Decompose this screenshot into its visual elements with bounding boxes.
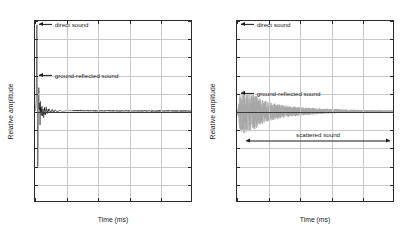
y-tickmark <box>188 21 191 22</box>
annotation-direct-sound: direct sound <box>39 22 89 28</box>
arrow-left-icon <box>241 91 254 96</box>
x-tickmark <box>161 198 162 201</box>
y-tickmark <box>35 57 38 58</box>
y-tickmark <box>390 130 393 131</box>
gridline-horizontal <box>237 167 393 168</box>
arrow-left-icon <box>241 22 254 27</box>
y-tickmark <box>35 76 38 77</box>
arrow-head-right-icon <box>386 139 390 143</box>
y-tickmark <box>390 21 393 22</box>
gridline-vertical <box>130 21 131 201</box>
x-tickmark <box>300 21 301 24</box>
x-tickmark <box>300 198 301 201</box>
annotation-label: direct sound <box>55 22 89 28</box>
x-tickmark <box>161 21 162 24</box>
y-tickmark <box>237 94 240 95</box>
x-tickmark <box>363 198 364 201</box>
x-tickmark <box>98 198 99 201</box>
x-tickmark <box>269 198 270 201</box>
gridline-horizontal <box>237 39 393 40</box>
y-tickmark <box>35 94 38 95</box>
gridline-horizontal <box>237 185 393 186</box>
y-tickmark <box>35 21 38 22</box>
y-tickmark <box>237 57 240 58</box>
zero-baseline <box>237 112 393 113</box>
y-tickmark <box>188 94 191 95</box>
y-tickmark <box>390 148 393 149</box>
gridline-horizontal <box>237 57 393 58</box>
x-tickmark <box>35 198 36 201</box>
y-tickmark <box>390 94 393 95</box>
arrow-head-left-icon <box>246 139 250 143</box>
gridline-vertical <box>269 21 270 201</box>
gridline-vertical <box>98 21 99 201</box>
y-tickmark <box>237 76 240 77</box>
y-tickmark <box>237 130 240 131</box>
gridline-vertical <box>332 21 333 201</box>
gridline-vertical <box>300 21 301 201</box>
span-line <box>246 141 390 142</box>
gridline-vertical <box>363 21 364 201</box>
right-y-axis-label: Relative amplitude <box>208 20 218 202</box>
y-tickmark <box>188 185 191 186</box>
gridline-horizontal <box>35 167 191 168</box>
y-tickmark <box>188 148 191 149</box>
y-tickmark <box>237 167 240 168</box>
y-tickmark <box>188 57 191 58</box>
gridline-vertical <box>67 21 68 201</box>
y-tickmark <box>390 39 393 40</box>
y-tickmark <box>237 39 240 40</box>
y-tickmark <box>35 167 38 168</box>
annotation-label: direct sound <box>257 22 291 28</box>
left-y-axis-label: Relative amplitude <box>6 20 16 202</box>
left-plot-area: 01020304050-1-0.8-0.6-0.4-0.200.20.40.60… <box>34 20 192 202</box>
arrow-left-icon <box>39 73 52 78</box>
y-tickmark <box>188 76 191 77</box>
zero-baseline <box>35 112 191 113</box>
x-tickmark <box>130 21 131 24</box>
y-tickmark <box>390 167 393 168</box>
y-tickmark <box>390 185 393 186</box>
gridline-horizontal <box>237 148 393 149</box>
y-tickmark <box>237 148 240 149</box>
gridline-horizontal <box>237 76 393 77</box>
annotation-direct-sound: direct sound <box>241 22 291 28</box>
gridline-vertical <box>161 21 162 201</box>
left-panel: Relative amplitude 01020304050-1-0.8-0.6… <box>0 0 202 238</box>
annotation-ground-reflected-sound: ground-reflected sound <box>241 91 321 97</box>
right-plot-area: 01020304050-1-0.8-0.6-0.4-0.200.20.40.60… <box>236 20 394 202</box>
left-x-axis-label: Time (ms) <box>34 216 192 223</box>
gridline-horizontal <box>35 148 191 149</box>
gridline-horizontal <box>35 130 191 131</box>
annotation-label: ground-reflected sound <box>55 72 119 78</box>
x-tickmark <box>363 21 364 24</box>
figure-container: Relative amplitude 01020304050-1-0.8-0.6… <box>0 0 404 238</box>
x-tickmark <box>130 198 131 201</box>
y-tickmark <box>188 39 191 40</box>
y-tickmark <box>35 148 38 149</box>
y-tickmark <box>35 39 38 40</box>
y-tickmark <box>188 167 191 168</box>
right-panel: Relative amplitude 01020304050-1-0.8-0.6… <box>202 0 404 238</box>
annotation-label: ground-reflected sound <box>257 91 321 97</box>
annotation-label: scattered sound <box>246 131 390 137</box>
annotation-ground-reflected-sound: ground-reflected sound <box>39 72 119 78</box>
x-tickmark <box>237 198 238 201</box>
right-waveform-trace <box>237 21 393 201</box>
gridline-horizontal <box>35 185 191 186</box>
arrow-left-icon <box>39 22 52 27</box>
x-tickmark <box>67 198 68 201</box>
gridline-horizontal <box>35 94 191 95</box>
y-tickmark <box>237 21 240 22</box>
gridline-horizontal <box>35 39 191 40</box>
y-tickmark <box>188 130 191 131</box>
right-x-axis-label: Time (ms) <box>236 216 394 223</box>
x-tickmark <box>332 21 333 24</box>
y-tickmark <box>35 130 38 131</box>
x-tickmark <box>98 21 99 24</box>
y-tickmark <box>390 76 393 77</box>
y-tickmark <box>35 185 38 186</box>
y-tickmark <box>237 185 240 186</box>
annotation-scattered-sound-span: scattered sound <box>246 138 390 145</box>
gridline-horizontal <box>35 57 191 58</box>
